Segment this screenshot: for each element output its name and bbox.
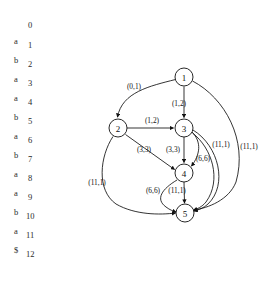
graph-node-5[interactable]: 5	[176, 204, 194, 222]
graph-nodes: 1 2 3 4 5	[109, 68, 194, 222]
node-5-label: 5	[183, 209, 188, 219]
edge-label-3-4-curved: (6,6)	[196, 154, 211, 163]
edge-label-1-5: (11,1)	[240, 142, 258, 151]
graph-node-1[interactable]: 1	[175, 68, 193, 86]
graph-node-4[interactable]: 4	[175, 164, 193, 182]
edge-label-2-5: (11,1)	[88, 178, 106, 187]
node-3-label: 3	[182, 124, 187, 134]
edge-label-3-5: (11,1)	[212, 140, 230, 149]
node-4-label: 4	[182, 169, 187, 179]
edge-label-4-5-curved: (6,6)	[146, 186, 161, 195]
edge-label-3-4-straight: (3,3)	[166, 145, 181, 154]
edge-label-1-2: (0,1)	[127, 82, 142, 91]
edge-label-2-3: (1,2)	[145, 116, 160, 125]
edge-label-2-4: (3,3)	[137, 145, 152, 154]
node-2-label: 2	[116, 124, 121, 134]
graph-edge-labels: (0,1) (1,2) (11,1) (1,2) (3,3) (11,1) (3…	[88, 82, 258, 195]
graph-node-3[interactable]: 3	[175, 119, 193, 137]
edge-label-1-3: (1,2)	[172, 99, 187, 108]
graph-node-2[interactable]: 2	[109, 119, 127, 137]
edge-3-to-5	[193, 133, 214, 210]
node-1-label: 1	[182, 73, 187, 83]
figure-root: 0 a 1 b 2 a 3 a 4 b 5 a 6 b 7 a 8 a 9 b …	[0, 0, 268, 283]
graph-diagram: (0,1) (1,2) (11,1) (1,2) (3,3) (11,1) (3…	[0, 0, 268, 283]
edge-label-4-5-straight: (11,1)	[168, 186, 186, 195]
